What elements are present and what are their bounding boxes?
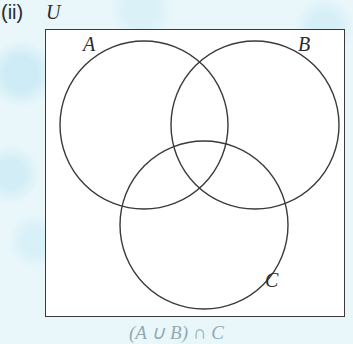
venn-diagram-circles [45,29,345,317]
set-a-circle [60,41,228,209]
set-b-circle [171,41,339,209]
set-b-label: B [298,34,310,54]
figure-item-label: (ii) [1,2,23,22]
set-c-label: C [265,270,278,290]
set-a-label: A [83,34,95,54]
figure-caption: (A ∪ B) ∩ C [0,322,353,344]
set-c-circle [120,141,288,309]
universal-set-label: U [46,2,60,22]
